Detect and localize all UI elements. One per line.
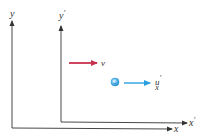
x-axis-label: x <box>173 123 179 134</box>
particle-group: u′x <box>111 74 162 92</box>
primed-frame: y′ x′ <box>58 9 195 128</box>
y-axis-label: y <box>9 8 15 19</box>
x-axis <box>12 128 172 129</box>
x-prime-axis <box>61 122 187 123</box>
frame-velocity-label: v <box>101 58 105 68</box>
particle-velocity-label: u′x <box>154 74 161 92</box>
reference-frames-diagram: y x y′ x′ v u′x <box>0 0 207 139</box>
unprimed-frame: y x <box>9 8 179 134</box>
frame-velocity: v <box>69 58 105 68</box>
x-prime-axis-label: x′ <box>188 116 195 128</box>
particle-ball <box>111 78 119 86</box>
y-prime-axis-label: y′ <box>58 9 65 21</box>
